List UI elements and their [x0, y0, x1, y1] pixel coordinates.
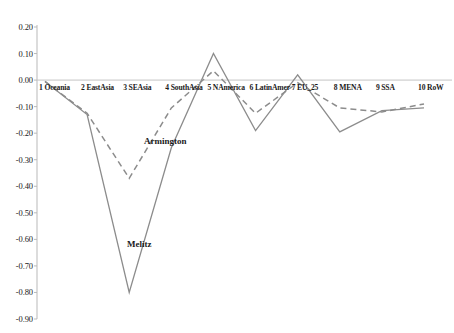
- y-tick-label: -0.60: [0, 234, 33, 244]
- y-tick-label: -0.70: [0, 261, 33, 271]
- y-tick-label: -0.80: [0, 287, 33, 297]
- x-category-label-2: 2 EastAsia: [81, 83, 114, 92]
- series-annotation-armington: Armington: [144, 136, 187, 146]
- y-tick-label: -0.20: [0, 128, 33, 138]
- series-annotation-melitz: Melitz: [127, 239, 151, 249]
- x-category-label-1: 1 Oceania: [39, 83, 70, 92]
- y-tick-label: -0.30: [0, 155, 33, 165]
- x-category-label-8: 8 MENA: [334, 83, 362, 92]
- y-tick-label: 0.20: [0, 22, 33, 32]
- y-tick-label: -0.10: [0, 102, 33, 112]
- x-category-label-6: 6 LatinAmer: [250, 83, 290, 92]
- x-category-label-7: 7 EU_25: [292, 83, 319, 92]
- y-tick-label: 0.10: [0, 49, 33, 59]
- y-tick-label: 0.00: [0, 75, 33, 85]
- x-category-label-4: 4 SouthAsia: [165, 83, 202, 92]
- x-category-label-9: 9 SSA: [376, 83, 395, 92]
- line-chart-plot: [0, 0, 454, 333]
- x-category-label-5: 5 NAmerica: [207, 83, 245, 92]
- chart-container: 0.200.100.00-0.10-0.20-0.30-0.40-0.50-0.…: [0, 0, 454, 333]
- y-tick-label: -0.40: [0, 181, 33, 191]
- y-tick-label: -0.90: [0, 314, 33, 324]
- y-tick-label: -0.50: [0, 208, 33, 218]
- x-category-label-3: 3 SEAsia: [123, 83, 151, 92]
- axis-group: [34, 25, 452, 319]
- x-category-label-10: 10 RoW: [418, 83, 443, 92]
